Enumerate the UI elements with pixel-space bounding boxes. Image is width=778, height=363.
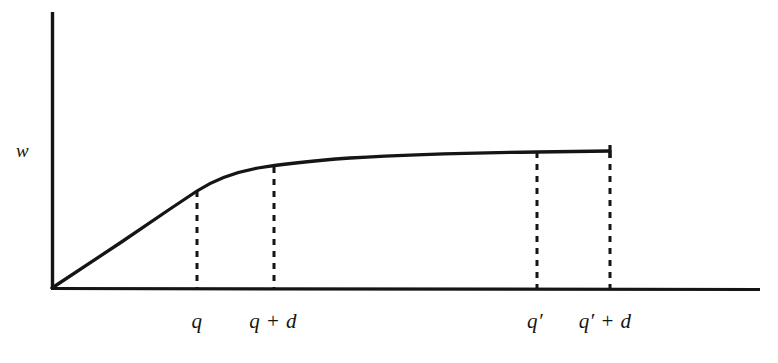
x-tick-label-q-plus-d: q + d: [249, 309, 297, 334]
x-tick-label-q-prime-plus-d: q′ + d: [579, 309, 632, 334]
data-curve-w: [52, 151, 610, 288]
figure-container: w q q + d q′ q′ + d: [0, 0, 778, 363]
y-axis-label: w: [16, 140, 29, 162]
plot-canvas: [0, 0, 778, 363]
x-tick-label-q-prime: q′: [527, 309, 543, 334]
x-axis-line: [51, 289, 760, 290]
x-tick-label-q: q: [192, 309, 203, 334]
